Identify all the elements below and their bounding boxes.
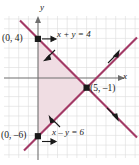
shaded-solution-region (38, 39, 87, 136)
arrow-right-at-0-4 (42, 36, 56, 41)
x-axis-arrowhead (118, 75, 125, 81)
vertex-point-0-neg6 (35, 133, 41, 139)
arrow-outward-lower-right (107, 108, 118, 120)
graph-canvas (0, 0, 139, 165)
y-axis-arrowhead (35, 16, 41, 23)
graph-figure: x y (0, 4) (0, –6) (5, –1) x + y = 4 x –… (0, 0, 139, 165)
arrow-right-at-0-neg6 (42, 139, 56, 144)
vertex-point-0-4 (35, 36, 41, 42)
vertex-point-5-neg1 (84, 85, 90, 91)
